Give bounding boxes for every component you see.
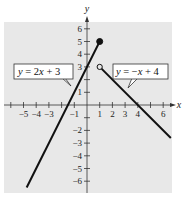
y-tick-label: −3: [72, 138, 82, 148]
closed-endpoint-dot: [97, 39, 103, 45]
callout-left-text: y = 2x + 3: [17, 66, 60, 77]
piecewise-function-graph: −5−4−3−112346−6−5−4−3−213456 x y y = 2x …: [0, 0, 183, 203]
x-tick-label: −5: [19, 109, 29, 119]
open-endpoint-circle: [97, 64, 102, 69]
plot-background: [4, 22, 172, 193]
callout-right-text: y = −x + 4: [115, 66, 160, 77]
x-tick-label: 3: [123, 109, 128, 119]
y-tick-label: −2: [72, 125, 82, 135]
x-tick-label: 6: [161, 109, 166, 119]
x-tick-label: 2: [110, 109, 115, 119]
y-tick-label: 6: [78, 24, 83, 34]
x-tick-label: −1: [70, 109, 80, 119]
y-tick-label: −6: [72, 176, 82, 186]
y-tick-label: 1: [78, 87, 83, 97]
x-axis-arrow-icon: [170, 103, 176, 107]
y-tick-label: 5: [78, 37, 83, 47]
x-tick-label: 1: [97, 109, 102, 119]
y-tick-label: −4: [72, 151, 82, 161]
x-tick-label: −4: [31, 109, 41, 119]
x-tick-label: −3: [44, 109, 54, 119]
y-axis-label: y: [84, 3, 90, 14]
x-axis-label: x: [176, 99, 182, 110]
x-tick-label: 4: [136, 109, 141, 119]
y-tick-label: 4: [78, 49, 83, 59]
y-axis-arrow-icon: [85, 16, 89, 22]
y-tick-label: −5: [72, 164, 82, 174]
y-tick-label: 3: [78, 62, 83, 72]
